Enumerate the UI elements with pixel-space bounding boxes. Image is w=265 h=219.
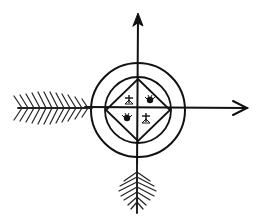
cross-symbol-top-left <box>125 95 133 104</box>
sun-symbol-top-right <box>145 95 155 103</box>
cross-symbol-bottom-right <box>142 113 150 123</box>
sun-symbol-bottom-left <box>122 113 132 121</box>
vertical-arrow-shaft <box>137 17 138 170</box>
left-feather <box>14 92 92 124</box>
symbol-drawing <box>0 0 265 219</box>
bottom-feather <box>119 165 156 213</box>
